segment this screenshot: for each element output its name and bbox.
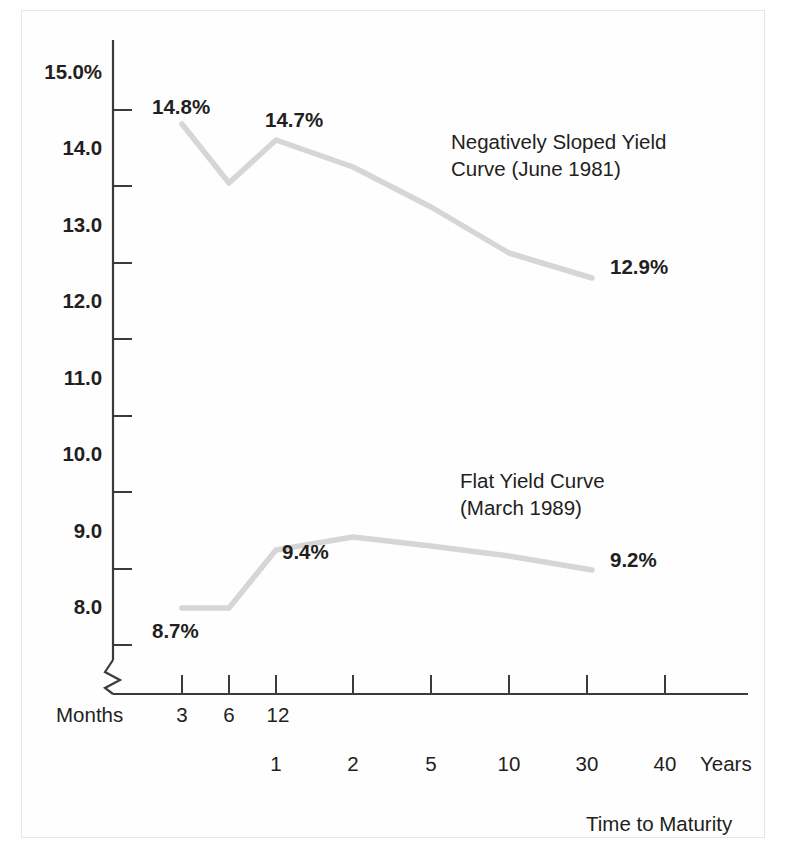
x-tick-label-10-years: 10 bbox=[498, 752, 521, 776]
series-line-flat bbox=[182, 537, 592, 608]
data-label-lower-mid: 9.4% bbox=[282, 540, 329, 564]
x-tick-label-6-months: 6 bbox=[223, 703, 234, 727]
annotation-flat-curve: Flat Yield Curve (March 1989) bbox=[460, 467, 605, 522]
x-tick-label-40-years: 40 bbox=[654, 752, 677, 776]
y-tick-label-9: 9.0 bbox=[38, 519, 102, 543]
annotation-negatively-sloped-line1: Negatively Sloped Yield bbox=[451, 128, 666, 155]
annotation-negatively-sloped-curve: Negatively Sloped Yield Curve (June 1981… bbox=[451, 128, 666, 183]
x-tick-label-3-months: 3 bbox=[176, 703, 187, 727]
x-tick-label-1-year: 1 bbox=[270, 752, 281, 776]
y-tick-label-14: 14.0 bbox=[38, 136, 102, 160]
data-label-upper-end: 12.9% bbox=[610, 255, 668, 279]
annotation-negatively-sloped-line2: Curve (June 1981) bbox=[451, 155, 666, 182]
data-label-lower-start: 8.7% bbox=[152, 619, 199, 643]
data-label-upper-start: 14.8% bbox=[152, 95, 210, 119]
x-axis-title: Time to Maturity bbox=[586, 812, 732, 836]
x-tick-label-5-years: 5 bbox=[425, 752, 436, 776]
annotation-flat-line1: Flat Yield Curve bbox=[460, 467, 605, 494]
x-tick-label-30-years: 30 bbox=[576, 752, 599, 776]
y-tick-label-12: 12.0 bbox=[38, 289, 102, 313]
data-label-lower-end: 9.2% bbox=[610, 548, 657, 572]
yield-curve-chart: 15.0% 14.0 13.0 12.0 11.0 10.0 9.0 8.0 M… bbox=[0, 0, 785, 867]
y-tick-label-10: 10.0 bbox=[38, 442, 102, 466]
y-tick-label-8: 8.0 bbox=[38, 595, 102, 619]
chart-plot-area bbox=[0, 0, 785, 867]
annotation-flat-line2: (March 1989) bbox=[460, 494, 605, 521]
y-axis-ticks bbox=[113, 110, 132, 645]
x-axis-years-word: Years bbox=[700, 752, 752, 776]
x-axis-ticks bbox=[182, 675, 665, 694]
data-label-upper-peak: 14.7% bbox=[265, 108, 323, 132]
x-axis-months-word: Months bbox=[56, 703, 123, 727]
axis-break-symbol bbox=[105, 660, 120, 694]
x-tick-label-12-months: 12 bbox=[267, 703, 290, 727]
y-tick-label-13: 13.0 bbox=[38, 213, 102, 237]
x-tick-label-2-years: 2 bbox=[347, 752, 358, 776]
y-tick-label-15: 15.0% bbox=[38, 60, 102, 84]
y-tick-label-11: 11.0 bbox=[38, 366, 102, 390]
